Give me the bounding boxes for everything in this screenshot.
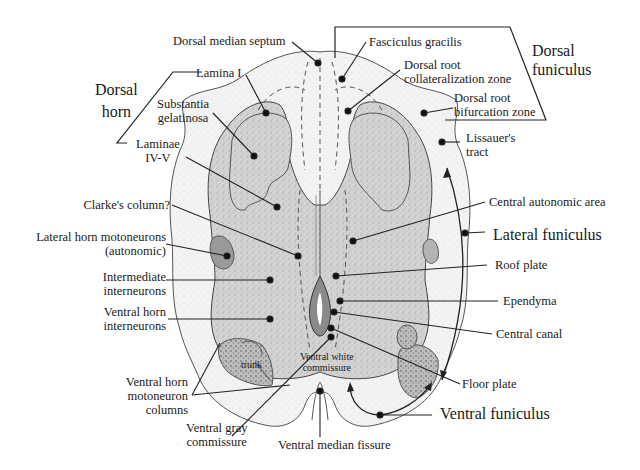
vwc-line2: commissure (300, 362, 354, 373)
collateralization-line1: Dorsal root (404, 58, 511, 72)
laminae-line2: IV-V (136, 151, 180, 165)
dorsal-horn-line1: Dorsal (95, 80, 138, 99)
dorsal-funiculus-line1: Dorsal (532, 41, 592, 60)
substantia-line2: gelatinosa (157, 111, 209, 125)
intermediate-line1: Intermediate (70, 270, 166, 284)
label-ventral-horn-motoneuron-columns: Ventral horn motoneuron columns (92, 375, 188, 417)
label-roof-plate: Roof plate (495, 258, 547, 272)
label-fasciculus-gracilis: Fasciculus gracilis (369, 35, 462, 49)
vhmc-line2: motoneuron (92, 389, 188, 403)
label-ventral-gray-commissure: Ventral gray commissure (186, 421, 247, 449)
label-ependyma: Ependyma (503, 294, 556, 308)
vh-interneurons-line2: interneurons (70, 319, 166, 333)
intermediate-line2: interneurons (70, 284, 166, 298)
group-label-ventral-funiculus: Ventral funiculus (440, 404, 550, 423)
vgc-line1: Ventral gray (186, 421, 247, 435)
group-label-dorsal-funiculus: Dorsal funiculus (532, 41, 592, 79)
dorsal-horn-line2: horn (95, 102, 138, 121)
group-label-dorsal-horn: Dorsal horn (95, 80, 138, 121)
label-ventral-horn-interneurons: Ventral horn interneurons (70, 305, 166, 333)
bifurcation-line1: Dorsal root (454, 91, 536, 105)
label-central-canal: Central canal (496, 327, 562, 341)
label-ventral-white-commissure: Ventral white commissure (300, 351, 354, 373)
lateral-horn-line2: (autonomic) (20, 244, 166, 258)
vwc-line1: Ventral white (300, 351, 354, 362)
label-floor-plate: Floor plate (462, 377, 517, 391)
label-lateral-horn-motoneurons: Lateral horn motoneurons (autonomic) (20, 230, 166, 258)
label-lamina-i: Lamina I (196, 66, 241, 80)
vhmc-line1: Ventral horn (92, 375, 188, 389)
substantia-line1: Substantia (157, 97, 209, 111)
label-intermediate-interneurons: Intermediate interneurons (70, 270, 166, 298)
label-clarkes-column: Clarke's column? (70, 198, 170, 212)
lissauer-line2: tract (466, 145, 515, 159)
label-central-autonomic-area: Central autonomic area (489, 195, 606, 209)
label-substantia-gelatinosa: Substantia gelatinosa (157, 97, 209, 125)
bifurcation-line2: bifurcation zone (454, 105, 536, 119)
vh-interneurons-line1: Ventral horn (70, 305, 166, 319)
label-trunk: trunk (241, 359, 262, 370)
label-dorsal-median-septum: Dorsal median septum (173, 34, 285, 48)
vgc-line2: commissure (186, 435, 247, 449)
lateral-horn-line1: Lateral horn motoneurons (20, 230, 166, 244)
label-dorsal-root-bifurcation-zone: Dorsal root bifurcation zone (454, 91, 536, 119)
label-laminae-iv-v: Laminae IV-V (136, 137, 180, 165)
label-ventral-median-fissure: Ventral median fissure (278, 438, 390, 452)
group-label-lateral-funiculus: Lateral funiculus (493, 225, 602, 244)
label-lissauers-tract: Lissauer's tract (466, 131, 515, 159)
dorsal-funiculus-line2: funiculus (532, 60, 592, 79)
lissauer-line1: Lissauer's (466, 131, 515, 145)
laminae-line1: Laminae (136, 137, 180, 151)
vhmc-line3: columns (92, 403, 188, 417)
collateralization-line2: collateralization zone (404, 72, 511, 86)
label-dorsal-root-collateralization-zone: Dorsal root collateralization zone (404, 58, 511, 86)
